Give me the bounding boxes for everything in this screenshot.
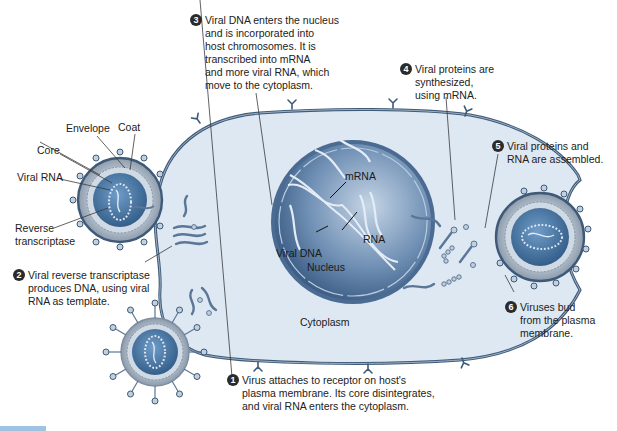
virus-entering — [70, 149, 163, 250]
step-5-badge: 5 — [492, 140, 504, 152]
label-mrna: mRNA — [345, 170, 376, 182]
step-5-text: Viral proteins and RNA are assembled. — [507, 140, 603, 166]
step-1-badge: 1 — [227, 374, 239, 386]
label-viral-dna: Viral DNA — [276, 247, 322, 259]
label-cytoplasm: Cytoplasm — [300, 316, 350, 328]
label-nucleus: Nucleus — [307, 261, 345, 273]
step-4-text: Viral proteins are synthesized, using mR… — [415, 63, 494, 102]
label-coat: Coat — [118, 121, 140, 134]
label-core: Core — [37, 144, 60, 157]
step-3-badge: 3 — [190, 14, 202, 26]
step-4-badge: 4 — [400, 63, 412, 75]
step-2-text: Viral reverse transcriptase produces DNA… — [28, 269, 150, 308]
step-1-text: Virus attaches to receptor on host's pla… — [242, 374, 435, 413]
figure-border-fragment — [0, 426, 46, 431]
nucleus — [273, 140, 433, 302]
step-3-text: Viral DNA enters the nucleus and is inco… — [205, 14, 339, 92]
step-6-text: Viruses bud from the plasma membrane. — [520, 301, 595, 340]
label-reverse-transcriptase-2: transcriptase — [15, 235, 75, 248]
label-envelope: Envelope — [66, 122, 110, 135]
label-rna: RNA — [363, 233, 385, 245]
step-6-badge: 6 — [505, 301, 517, 313]
hiv-life-cycle-diagram: Envelope Coat Core Viral RNA Reverse tra… — [0, 0, 617, 431]
label-viral-rna: Viral RNA — [17, 171, 63, 184]
step-2-badge: 2 — [13, 269, 25, 281]
label-reverse-transcriptase-1: Reverse — [15, 222, 54, 235]
